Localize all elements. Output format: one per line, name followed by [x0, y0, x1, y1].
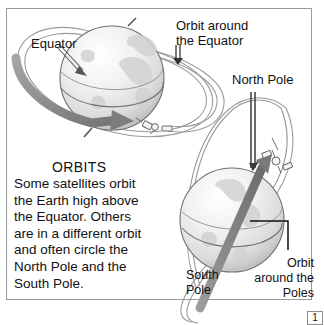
label-south-pole-line2: Pole: [186, 283, 211, 297]
figure-body-line: and often circle the: [14, 242, 128, 257]
figure-body-text: Some satellites orbitthe Earth high abov…: [14, 176, 170, 292]
figure-body-line: South Pole.: [14, 276, 84, 291]
label-orbit-around-equator: Orbit around the Equator: [176, 18, 248, 49]
label-orbit-around-equator-line1: Orbit around: [176, 18, 248, 33]
label-south-pole: South Pole: [186, 268, 219, 298]
label-orbit-around-equator-line2: the Equator: [176, 33, 243, 48]
label-south-pole-line1: South: [186, 268, 219, 282]
label-equator: Equator: [31, 36, 77, 51]
label-orbit-around-poles-line1: Orbit: [287, 256, 314, 270]
figure-body-line: the Earth high above: [14, 193, 139, 208]
figure-body-line: the Equator. Others: [14, 209, 131, 224]
label-north-pole: North Pole: [232, 72, 293, 87]
figure-body-line: are in a different orbit: [14, 226, 141, 241]
figure-canvas: Equator Orbit around the Equator North P…: [0, 0, 324, 325]
label-orbit-around-poles: Orbit around the Poles: [236, 256, 314, 300]
figure-body-line: North Pole and the: [14, 259, 127, 274]
page-number-badge: 1: [307, 311, 323, 325]
figure-body-line: Some satellites orbit: [14, 176, 136, 191]
figure-title: ORBITS: [52, 159, 107, 176]
label-orbit-around-poles-line3: Poles: [283, 286, 314, 300]
label-orbit-around-poles-line2: around the: [254, 271, 314, 285]
north-pole-axis: [249, 92, 258, 171]
